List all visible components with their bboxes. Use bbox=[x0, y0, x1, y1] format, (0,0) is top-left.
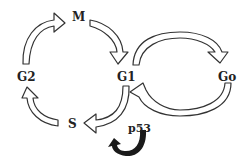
arrow-g1-to-s bbox=[84, 86, 129, 133]
node-go: Go bbox=[218, 71, 236, 83]
node-s: S bbox=[68, 118, 77, 130]
arrow-g1-to-go bbox=[133, 32, 228, 65]
node-m: M bbox=[72, 11, 85, 23]
node-g1: G1 bbox=[117, 71, 136, 83]
arrow-g2-to-m bbox=[23, 13, 65, 64]
regulator-p53: p53 bbox=[128, 123, 151, 134]
arrow-go-to-g1 bbox=[130, 83, 231, 116]
node-g2: G2 bbox=[17, 71, 36, 83]
arrow-s-to-g2 bbox=[22, 87, 58, 126]
arrow-m-to-g1 bbox=[90, 20, 128, 64]
